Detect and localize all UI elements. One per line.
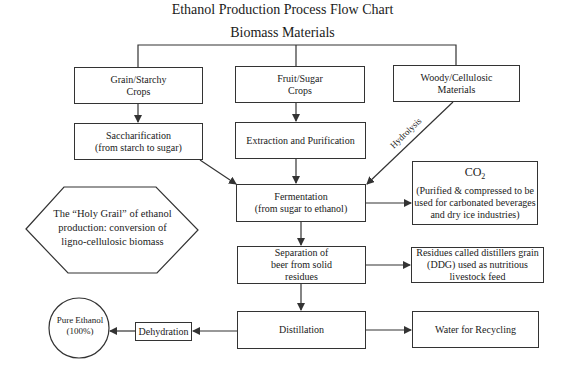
separation-line2: beer from solid (271, 259, 332, 271)
fermentation-line1: Fermentation (274, 191, 327, 203)
grain-line2: Crops (127, 86, 151, 98)
water-label: Water for Recycling (435, 324, 516, 336)
sacch-line1: Saccharification (106, 130, 171, 142)
tree-top-line (138, 45, 456, 67)
dehydration-label: Dehydration (139, 326, 189, 338)
separation-line3: residues (285, 271, 318, 283)
flowchart-canvas: Ethanol Production Process Flow Chart Bi… (0, 0, 565, 373)
co2-formula: CO (465, 165, 482, 179)
co2-subscript: 2 (481, 173, 485, 182)
woody-line2: Materials (438, 84, 476, 96)
separation-line1: Separation of (275, 247, 329, 259)
ddg-line1: Residues called distillers grain (416, 247, 538, 259)
biomass-root-label: Biomass Materials (0, 25, 565, 41)
holy-grail-line3: ligno-cellulosic biomass (40, 235, 185, 249)
co2-line1: (Purified & compressed to be (416, 185, 534, 197)
separation-box: Separation of beer from solid residues (237, 246, 366, 284)
ddg-line2: (DDG) used as nutritious (427, 259, 528, 271)
woody-line1: Woody/Cellulosic (421, 72, 493, 84)
holy-grail-line2: production: conversion of (40, 221, 185, 235)
pure-ethanol-line1: Pure Ethanol (50, 315, 110, 326)
co2-box: CO2 (Purified & compressed to be used fo… (412, 161, 538, 225)
saccharification-box: Saccharification (from starch to sugar) (74, 123, 203, 160)
ddg-line3: livestock feed (450, 271, 506, 283)
fermentation-line2: (from sugar to ethanol) (255, 203, 347, 215)
fruit-crops-box: Fruit/Sugar Crops (235, 66, 365, 103)
fruit-line1: Fruit/Sugar (277, 73, 323, 85)
pure-ethanol-line2: (100%) (50, 326, 110, 337)
dehydration-box: Dehydration (135, 322, 192, 341)
co2-line3: and dry ice industries) (430, 209, 519, 221)
pure-ethanol-text: Pure Ethanol (100%) (50, 315, 110, 337)
co2-line2: used for carbonated beverages (414, 197, 535, 209)
extraction-box: Extraction and Purification (235, 122, 366, 159)
water-recycling-box: Water for Recycling (412, 311, 539, 348)
grain-crops-box: Grain/Starchy Crops (74, 67, 203, 104)
distillation-label: Distillation (279, 324, 324, 336)
co2-heading: CO2 (465, 165, 486, 184)
woody-materials-box: Woody/Cellulosic Materials (393, 65, 520, 102)
holy-grail-text: The “Holy Grail” of ethanol production: … (40, 207, 185, 249)
fermentation-box: Fermentation (from sugar to ethanol) (236, 184, 366, 222)
extraction-line1: Extraction and Purification (246, 135, 354, 147)
chart-title: Ethanol Production Process Flow Chart (0, 2, 565, 18)
grain-line1: Grain/Starchy (110, 74, 166, 86)
distillation-box: Distillation (237, 311, 366, 349)
sacch-line2: (from starch to sugar) (95, 142, 182, 154)
fruit-line2: Crops (288, 85, 312, 97)
holy-grail-line1: The “Holy Grail” of ethanol (40, 207, 185, 221)
ddg-box: Residues called distillers grain (DDG) u… (411, 247, 544, 283)
